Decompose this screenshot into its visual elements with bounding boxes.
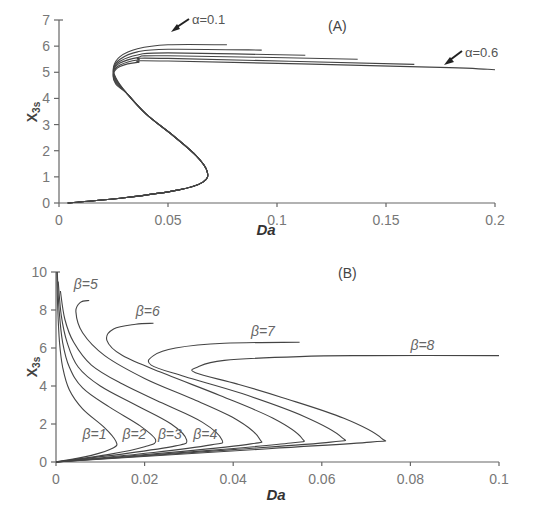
chart-b-y-tick-label: 0 [39, 454, 47, 470]
chart-a-y-tick-label: 6 [42, 38, 50, 54]
chart-b-series-label: β=8 [409, 337, 434, 353]
alpha-last-label: α=0.6 [465, 45, 498, 60]
chart-a-y-tick-label: 3 [42, 117, 50, 133]
chart-b-x-tick-label: 0.02 [131, 471, 158, 487]
chart-b-series-label: β=2 [121, 426, 146, 442]
chart-a-series-2 [68, 49, 262, 203]
chart-b-y-tick-label: 6 [39, 340, 47, 356]
alpha-0.6-annotation: α=0.6 [444, 45, 498, 65]
chart-b-y-tick-label: 2 [39, 416, 47, 432]
panel-label-b: (B) [338, 265, 357, 281]
chart-a-y-tick-label: 4 [42, 90, 50, 106]
alpha-first-label: α=0.1 [192, 12, 225, 27]
chart-b-series-label: β=3 [157, 426, 182, 442]
chart-a-x-tick-label: 0.05 [154, 212, 181, 228]
chart-b-y-tick-label: 10 [31, 264, 47, 280]
chart-b-x-tick-label: 0.06 [308, 471, 335, 487]
chart-b-series-label: β=4 [192, 426, 217, 442]
chart-b-series-label: β=6 [135, 303, 160, 319]
chart-a-y-tick-label: 1 [42, 169, 50, 185]
chart-a-x-axis-label: Da [256, 221, 275, 238]
chart-b-x-axis-label: Da [266, 486, 285, 503]
figure: (A) 00.050.10.150.201234567 Da X3s α=0.1… [0, 0, 536, 508]
panel-label-a: (A) [328, 18, 347, 34]
chart-b-x-tick-label: 0.08 [397, 471, 424, 487]
chart-a-x-tick-label: 0.15 [372, 212, 399, 228]
chart-b-x-tick-label: 0.04 [220, 471, 247, 487]
chart-a-y-tick-label: 5 [42, 64, 50, 80]
chart-a-series-1 [68, 44, 227, 203]
chart-a-y-tick-label: 7 [42, 12, 50, 28]
chart-a-series-3 [68, 53, 306, 203]
chart-b-curves: β=1β=2β=3β=4β=5β=6β=7β=8 [56, 272, 499, 462]
chart-a-x-tick-label: 0.2 [485, 212, 505, 228]
chart-a-series-6 [68, 61, 495, 203]
chart-b-x-tick-label: 0 [52, 471, 60, 487]
chart-b-x-tick-label: 0.1 [489, 471, 509, 487]
chart-a-x-tick-label: 0 [55, 212, 63, 228]
arrow-icon [450, 51, 462, 60]
alpha-0.1-annotation: α=0.1 [171, 12, 225, 32]
chart-b-series-label: β=7 [250, 323, 276, 339]
chart-b: (B) 00.020.040.060.080.10246810 β=1β=2β=… [24, 264, 509, 503]
chart-a-y-tick-label: 0 [42, 195, 50, 211]
chart-b-y-axis-label: X3s [24, 356, 42, 377]
chart-a-y-axis-label: X3s [24, 101, 42, 122]
chart-a-y-tick-label: 2 [42, 143, 50, 159]
chart-a-series-4 [68, 56, 358, 203]
arrow-icon [177, 19, 189, 27]
chart-a-series-5 [68, 58, 415, 203]
chart-a: (A) 00.050.10.150.201234567 Da X3s α=0.1… [24, 12, 505, 238]
chart-b-axes: 00.020.040.060.080.10246810 [31, 264, 509, 487]
chart-a-axes: 00.050.10.150.201234567 [42, 12, 505, 228]
chart-b-y-tick-label: 8 [39, 302, 47, 318]
chart-b-y-tick-label: 4 [39, 378, 47, 394]
chart-b-series-label: β=5 [73, 276, 98, 292]
chart-a-curves [68, 44, 495, 203]
chart-b-series-label: β=1 [82, 426, 107, 442]
